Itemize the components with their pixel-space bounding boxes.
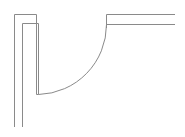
door-swing-arc [39,25,107,95]
door-plan-diagram [0,0,185,137]
